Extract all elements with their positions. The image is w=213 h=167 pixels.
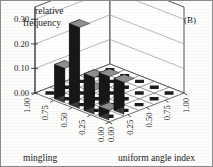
x-tick-label: 0.00 — [96, 127, 106, 142]
floor-cell — [45, 91, 54, 94]
x-tick-label: 0.50 — [59, 113, 69, 128]
x-tick-label: 0.75 — [40, 105, 50, 120]
x-tick-label: 0.25 — [77, 120, 87, 135]
floor-cell — [135, 80, 144, 83]
floor-cell — [135, 103, 144, 106]
floor-cell — [135, 91, 144, 94]
floor-cell — [150, 97, 159, 100]
y-tick — [147, 108, 150, 110]
y-tick-label: 0.75 — [162, 105, 172, 120]
x-tick-label: 1.00 — [22, 98, 32, 113]
floor-cell — [165, 91, 174, 94]
y-tick — [128, 115, 131, 117]
z-tick-label: 0.10 — [14, 63, 29, 73]
x-tick — [69, 108, 72, 110]
y-tick-label: 0.50 — [144, 113, 154, 128]
x-tick — [50, 100, 53, 102]
z-tick-label: 0.00 — [14, 88, 29, 98]
x-tick — [106, 122, 109, 124]
y-tick-label: 0.25 — [125, 120, 135, 135]
y-tick — [109, 122, 112, 124]
x-tick — [87, 115, 90, 117]
y-tick-label: 0.00 — [106, 127, 116, 142]
z-tick-label: 0.30 — [14, 14, 29, 24]
y-tick — [165, 100, 168, 102]
figure-panel: 0.000.100.200.301.000.750.500.250.000.00… — [0, 0, 213, 167]
y-tick-label: 1.00 — [181, 98, 191, 113]
z-tick-label: 0.20 — [14, 39, 29, 49]
bar3d-chart: 0.000.100.200.301.000.750.500.250.000.00… — [1, 1, 213, 167]
floor-cell — [150, 86, 159, 89]
y-tick — [184, 93, 187, 95]
